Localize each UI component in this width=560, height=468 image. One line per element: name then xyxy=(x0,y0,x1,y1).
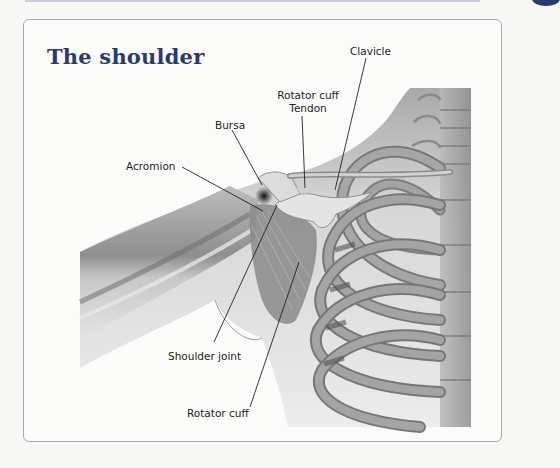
label-acromion: Acromion xyxy=(126,160,176,173)
label-rotator-cuff-tendon: Rotator cuff Tendon xyxy=(276,89,340,115)
label-bursa: Bursa xyxy=(215,119,245,132)
bursa-leader-line xyxy=(232,130,262,185)
label-rotator-cuff-tendon-line2: Tendon xyxy=(276,102,340,115)
label-shoulder-joint: Shoulder joint xyxy=(168,350,241,363)
label-rotator-cuff: Rotator cuff xyxy=(187,407,249,420)
label-rotator-cuff-tendon-line1: Rotator cuff xyxy=(276,89,340,102)
label-clavicle: Clavicle xyxy=(350,45,391,58)
